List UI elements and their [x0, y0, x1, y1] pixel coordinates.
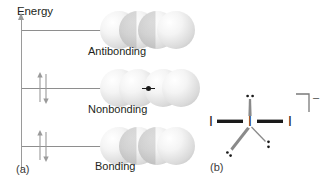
orbital-label-antibonding: Antibonding [88, 45, 146, 57]
panel-b-caption: (b) [210, 161, 223, 173]
orbital-lobe [157, 11, 195, 49]
orbital-row-antibonding [100, 11, 196, 49]
lone-pair-dot [246, 95, 249, 98]
bond-down-right [252, 127, 266, 142]
orbital-row-nonbonding [100, 69, 196, 107]
orbital-node-dot [146, 86, 151, 91]
charge-bracket [296, 94, 309, 112]
bond-up-wedge [248, 99, 251, 116]
bond-left [217, 120, 243, 123]
orbital-label-nonbonding: Nonbonding [88, 103, 147, 115]
chemistry-figure: Energy [0, 0, 323, 192]
energy-axis [21, 18, 22, 170]
bond-right [257, 120, 283, 123]
electron-pair-nonbonding [33, 71, 55, 105]
atom-label-right-iodine: I [288, 113, 292, 129]
orbital-lobe [162, 69, 200, 107]
orbital-label-bonding: Bonding [95, 160, 135, 172]
charge-sign: – [313, 92, 320, 103]
bond-down-left-wedge [230, 127, 250, 151]
lone-pair-dot [226, 151, 229, 154]
energy-level-antibonding [22, 30, 105, 31]
triiodide-lewis-structure: I I I – [203, 92, 321, 162]
lone-pair-dot [229, 154, 232, 157]
lone-pair-dot [267, 140, 270, 143]
panel-a-caption: (a) [16, 163, 29, 175]
orbital-lobe [157, 127, 195, 165]
atom-label-left-iodine: I [209, 113, 213, 129]
electron-pair-bonding [33, 129, 55, 163]
lone-pair-dot [267, 145, 270, 148]
lone-pair-dot [251, 95, 254, 98]
